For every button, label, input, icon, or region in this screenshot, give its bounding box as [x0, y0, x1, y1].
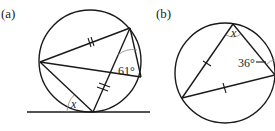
- angle-label-36: 36°: [238, 56, 255, 70]
- angle-label-61: 61°: [118, 64, 135, 78]
- panel-b: (b) x 36°: [156, 6, 275, 123]
- chord-left-top: [40, 28, 130, 62]
- geometry-figure: (a) 61° x (b) x: [0, 0, 275, 131]
- chord-left-bottom: [40, 62, 93, 112]
- panel-b-label: (b): [156, 6, 171, 21]
- panel-a: (a) 61° x: [1, 6, 150, 112]
- circle-a: [39, 10, 141, 112]
- angle-label-x-b: x: [230, 26, 237, 40]
- circle-b: [175, 23, 275, 123]
- angle-label-x-a: x: [70, 97, 77, 111]
- panel-a-label: (a): [1, 6, 15, 21]
